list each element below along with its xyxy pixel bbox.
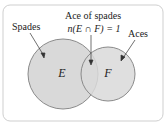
- venn-diagram: E F Spades Aces Ace of spades n(E ∩ F) =…: [0, 0, 167, 127]
- aces-caption: Aces: [128, 28, 148, 39]
- intersection-caption: Ace of spades: [65, 10, 121, 21]
- set-f-label: F: [103, 66, 112, 80]
- set-e-label: E: [57, 66, 66, 80]
- spades-caption: Spades: [12, 21, 40, 32]
- intersection-formula: n(E ∩ F) = 1: [68, 23, 121, 35]
